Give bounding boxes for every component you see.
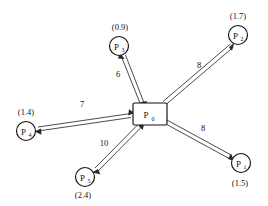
node-p1[interactable]: P 1 (1.5): [232, 154, 251, 189]
node-p0-subscript: 0: [152, 116, 155, 122]
node-p3-value: (0.9): [112, 22, 128, 32]
node-p4-label: P: [21, 127, 26, 137]
node-p3-label: P: [114, 42, 119, 52]
node-p1-subscript: 1: [244, 164, 247, 170]
node-p2[interactable]: P 2 (1.7): [229, 11, 248, 45]
node-p2-value: (1.7): [230, 11, 246, 21]
node-p3[interactable]: P 3 (0.9): [110, 22, 129, 56]
node-p5[interactable]: P 5 (2.4): [75, 168, 95, 201]
node-p4-value: (1.4): [18, 107, 34, 117]
node-p5-subscript: 5: [88, 178, 91, 184]
edge-p0-p3: [118, 53, 147, 108]
node-p2-label: P: [233, 31, 238, 41]
edge-p0-p2: [161, 42, 235, 111]
edge-weight-p2: 8: [197, 60, 201, 70]
edge-weight-p4: 7: [80, 99, 84, 109]
node-p5-label: P: [80, 173, 85, 183]
node-p5-value: (2.4): [75, 190, 91, 200]
node-p1-value: (1.5): [232, 178, 248, 188]
node-p0-box[interactable]: [133, 103, 167, 125]
node-p4-subscript: 4: [29, 132, 32, 138]
node-p0[interactable]: P 0: [133, 103, 167, 125]
node-p2-subscript: 2: [241, 36, 244, 42]
star-topology-diagram: 6 8 7 10 8 P 0 P 3 (0.9) P 2 (1.7): [0, 0, 268, 206]
edge-weight-p1: 8: [201, 123, 205, 133]
node-p1-label: P: [236, 159, 241, 169]
edge-p0-p1: [161, 117, 235, 161]
node-p3-subscript: 3: [122, 47, 125, 53]
node-p4[interactable]: P 4 (1.4): [17, 107, 36, 141]
node-p0-label: P: [143, 110, 148, 120]
edge-p0-p4: [35, 109, 135, 135]
diagram-canvas: 6 8 7 10 8 P 0 P 3 (0.9) P 2 (1.7): [0, 0, 268, 206]
edge-weight-p3: 6: [116, 69, 120, 79]
edge-weight-p5: 10: [100, 138, 109, 148]
